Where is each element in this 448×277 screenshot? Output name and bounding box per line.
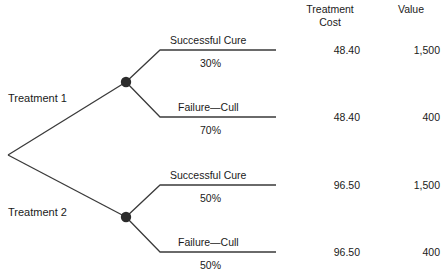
column-header-value: Value	[378, 3, 444, 16]
branch-label-t2-successful-cure: Successful Cure	[170, 169, 246, 181]
branch-label-t2-failure-cull: Failure—Cull	[178, 236, 239, 248]
decision-label-treatment-2: Treatment 2	[8, 206, 67, 218]
branch-probability-t2-failure-cull: 50%	[200, 259, 221, 271]
cell-treatment-cost-t2-failure-cull: 96.50	[292, 246, 360, 258]
column-header-treatment-cost-line1: Treatment	[292, 3, 368, 16]
decision-label-treatment-1: Treatment 1	[8, 92, 67, 104]
branch-label-t1-failure-cull: Failure—Cull	[178, 101, 239, 113]
branch-probability-t1-successful-cure: 30%	[200, 57, 221, 69]
cell-value-t2-successful-cure: 1,500	[378, 179, 440, 191]
branch-probability-t1-failure-cull: 70%	[200, 124, 221, 136]
cell-treatment-cost-t2-successful-cure: 96.50	[292, 179, 360, 191]
cell-value-t1-successful-cure: 1,500	[378, 44, 440, 56]
cell-treatment-cost-t1-successful-cure: 48.40	[292, 44, 360, 56]
column-header-treatment-cost: Treatment Cost	[292, 3, 368, 28]
cell-value-t2-failure-cull: 400	[378, 246, 440, 258]
column-header-value-line1: Value	[378, 3, 444, 16]
branch-probability-t2-successful-cure: 50%	[200, 192, 221, 204]
cell-value-t1-failure-cull: 400	[378, 111, 440, 123]
column-header-treatment-cost-line2: Cost	[292, 16, 368, 29]
cell-treatment-cost-t1-failure-cull: 48.40	[292, 111, 360, 123]
branch-label-t1-successful-cure: Successful Cure	[170, 34, 246, 46]
chance-node-treatment-2	[121, 212, 131, 222]
decision-tree-figure: Treatment Cost Value Treatment 1 Treatme…	[0, 0, 448, 277]
chance-node-treatment-1	[121, 77, 131, 87]
